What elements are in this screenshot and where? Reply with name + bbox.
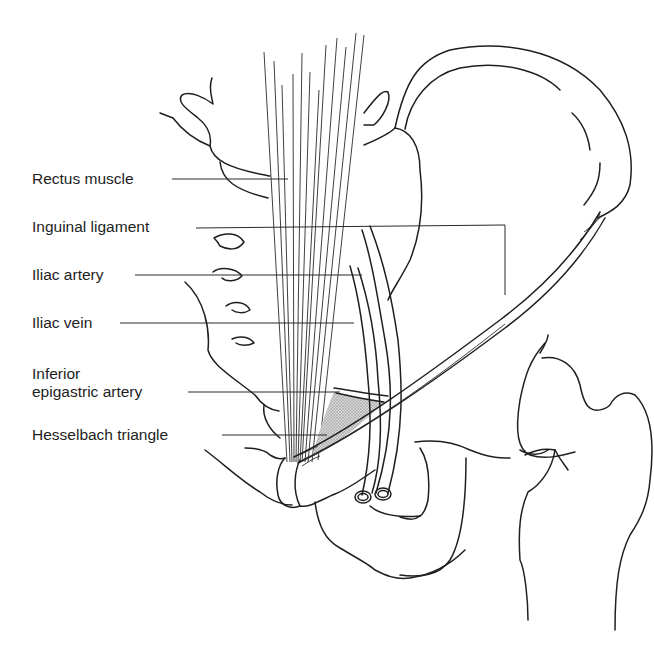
label-inguinal-ligament: Inguinal ligament bbox=[32, 218, 149, 236]
leader-inguinal-ligament bbox=[196, 225, 505, 228]
label-inferior-epigastric-artery-line2: epigastric artery bbox=[32, 383, 142, 401]
iliac-vessels bbox=[350, 226, 420, 517]
hip-and-femur-outline bbox=[400, 335, 652, 630]
sacrum-outline bbox=[160, 78, 280, 438]
label-hesselbach-triangle: Hesselbach triangle bbox=[32, 426, 168, 444]
pubic-bone-outline bbox=[205, 448, 465, 578]
label-rectus-muscle: Rectus muscle bbox=[32, 170, 134, 188]
ilium-outline bbox=[364, 46, 631, 300]
label-iliac-artery: Iliac artery bbox=[32, 266, 104, 284]
sacral-foramina bbox=[213, 234, 254, 345]
label-inferior-epigastric-artery-line1: Inferior bbox=[32, 365, 80, 383]
hesselbach-triangle-region bbox=[312, 392, 385, 457]
anatomy-diagram bbox=[0, 0, 654, 657]
label-iliac-vein: Iliac vein bbox=[32, 314, 92, 332]
